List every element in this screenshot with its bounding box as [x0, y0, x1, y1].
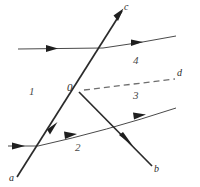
ray-o-to-b — [79, 92, 152, 166]
lower-incident-arrowhead — [12, 143, 25, 150]
region-label-3: 3 — [133, 90, 139, 101]
upper-incident-arrowhead — [46, 45, 58, 52]
ray-c-arrowhead — [114, 9, 124, 22]
lower-refracted-line — [38, 108, 176, 146]
lower-refracted-arrowhead-left — [64, 132, 77, 140]
ray-diagram-figure: 0 a b c d 1 2 3 4 — [0, 0, 200, 187]
ray-label-c: c — [124, 2, 128, 12]
ray-label-d: d — [177, 68, 182, 78]
upper-incident-line — [18, 48, 103, 49]
region-label-1: 1 — [29, 86, 35, 97]
ray-label-a: a — [9, 173, 14, 183]
ray-o-to-d-dashed — [84, 79, 175, 90]
vertex-label-o: 0 — [67, 82, 73, 93]
ray-label-b: b — [154, 164, 159, 174]
region-label-4: 4 — [133, 55, 139, 66]
region-label-2: 2 — [75, 142, 81, 153]
ray-b-mid-arrowhead — [119, 132, 133, 146]
